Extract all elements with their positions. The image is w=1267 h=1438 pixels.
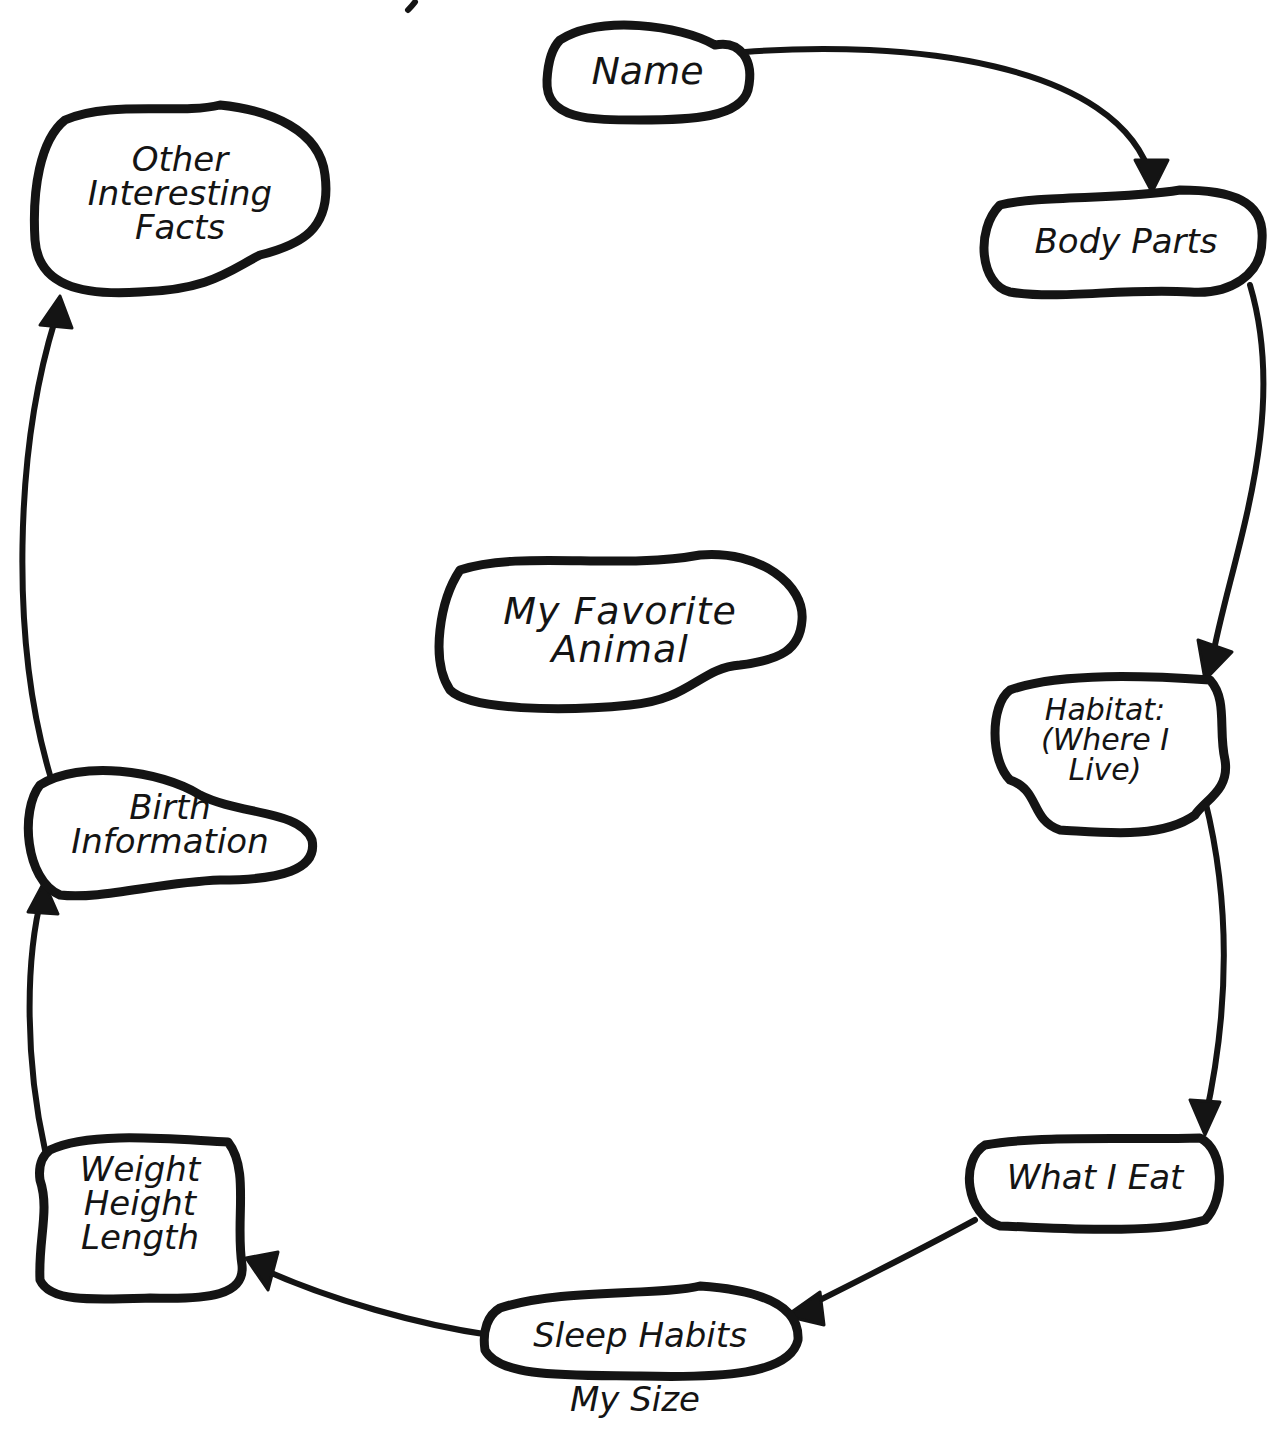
- center-label-my-favorite-animal: My Favorite Animal: [445, 592, 795, 668]
- arrowhead-icon: [1135, 160, 1168, 192]
- arrow-body-parts-to-habitat: [1212, 285, 1263, 660]
- node-label-other-interesting-facts: Other Interesting Facts: [45, 142, 315, 244]
- arrowhead-icon: [1198, 640, 1232, 680]
- node-label-sleep-habits: Sleep Habits: [490, 1318, 790, 1352]
- node-label-habitat: Habitat: (Where I Live): [995, 695, 1215, 785]
- node-label-what-i-eat: What I Eat: [970, 1160, 1220, 1194]
- node-label-birth-information: Birth Information: [30, 790, 310, 858]
- annotation-my-size: My Size: [520, 1382, 750, 1416]
- arrow-birth-to-other-facts: [22, 320, 55, 775]
- arrow-what-i-eat-to-sleep-habits: [800, 1220, 975, 1310]
- node-label-name: Name: [555, 52, 740, 90]
- arrow-sleep-habits-to-weight: [260, 1268, 490, 1335]
- node-label-weight-height-length: Weight Height Length: [45, 1152, 235, 1254]
- arrow-weight-to-birth: [30, 895, 45, 1150]
- arrow-name-to-body-parts: [745, 49, 1152, 180]
- node-label-body-parts: Body Parts: [990, 224, 1262, 258]
- stray-stroke: [408, 2, 415, 10]
- arrowhead-icon: [1190, 1100, 1220, 1135]
- arrow-habitat-to-what-i-eat: [1205, 800, 1224, 1120]
- arrowhead-icon: [40, 296, 72, 328]
- arrowhead-icon: [246, 1252, 278, 1290]
